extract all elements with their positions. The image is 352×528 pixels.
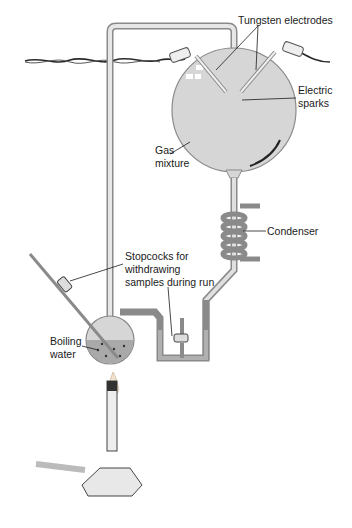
gas-hose [36,464,85,470]
diagram-canvas: Tungsten electrodes Electric sparks Gas … [0,0,352,528]
label-stopcocks: Stopcocks for withdrawing samples during… [125,250,214,289]
label-gas-mixture: Gas mixture [155,144,189,170]
label-condenser: Condenser [267,225,318,238]
label-electric-sparks: Electric sparks [298,84,332,110]
burner-base [82,468,142,496]
label-boiling-water: Boiling water [50,335,82,361]
burner-barrel [107,381,117,451]
label-tungsten-electrodes: Tungsten electrodes [238,14,333,27]
spark-flask [172,48,296,172]
right-wire [300,52,330,62]
lower-stopcock [174,334,188,342]
u-trap [120,300,206,358]
